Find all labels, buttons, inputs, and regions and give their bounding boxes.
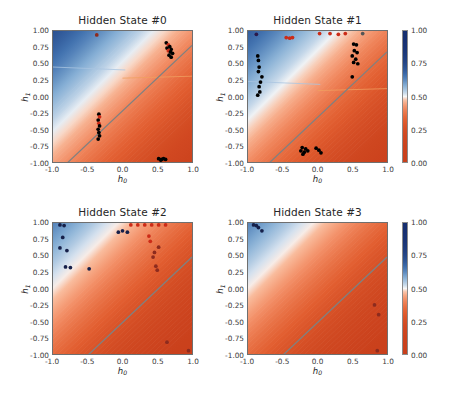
- scatter-point: [318, 32, 322, 36]
- panel-title: Hidden State #1: [247, 14, 388, 26]
- scatter-point: [58, 223, 62, 227]
- scatter-point: [256, 54, 260, 58]
- x-axis-label: h0: [52, 366, 193, 376]
- colorbar-tick-label: 0.50: [411, 92, 427, 101]
- x-axis-label: h0: [247, 366, 388, 376]
- scatter-point: [147, 234, 151, 238]
- scatter-point: [284, 36, 288, 40]
- scatter-point: [61, 236, 65, 240]
- y-tick-label: -0.75: [225, 334, 244, 343]
- scatter-point: [375, 349, 379, 353]
- panel-title: Hidden State #2: [52, 206, 193, 218]
- y-tick-label: 0.50: [228, 251, 244, 260]
- y-tick-label: 1.00: [33, 218, 49, 227]
- scatter-point: [69, 266, 73, 270]
- x-tick-label: 0.5: [152, 357, 164, 366]
- scatter-point: [257, 59, 261, 63]
- scatter-point: [257, 226, 261, 230]
- scatter-point: [260, 229, 264, 233]
- scatter-point: [65, 249, 69, 253]
- colorbar-tick-label: 1.00: [411, 218, 427, 227]
- x-tick-label: 0.0: [312, 165, 324, 174]
- y-tick-label: 0.25: [228, 75, 244, 84]
- scatter-point: [164, 223, 168, 227]
- y-tick-label: -0.75: [30, 142, 49, 151]
- y-tick-label: -0.50: [225, 317, 244, 326]
- y-tick-label: -0.25: [225, 301, 244, 310]
- scatter-point: [159, 158, 163, 162]
- y-tick-label: 1.00: [228, 26, 244, 35]
- scatter-point: [350, 75, 354, 79]
- panel-hidden-state-3: Hidden State #3 h1 h0 -1.00-0.75-0.50-0.…: [247, 222, 388, 355]
- scatter-point: [143, 223, 147, 227]
- scatter-point: [361, 32, 365, 36]
- x-tick-label: 0.0: [117, 165, 129, 174]
- scatter-point: [151, 255, 155, 259]
- scatter-point: [96, 137, 100, 141]
- plot-area: [247, 30, 388, 163]
- scatter-point: [125, 230, 129, 234]
- colorbar-gradient: [402, 30, 408, 163]
- scatter-point: [187, 349, 191, 353]
- y-tick-label: 0.50: [33, 251, 49, 260]
- x-tick-label: -1.0: [45, 357, 59, 366]
- y-tick-label: 0.75: [33, 234, 49, 243]
- y-tick-label: 1.00: [228, 218, 244, 227]
- plot-area: [247, 222, 388, 355]
- y-axis-label: h1: [215, 284, 225, 293]
- y-axis-label: h1: [20, 92, 30, 101]
- scatter-point: [256, 93, 260, 97]
- scatter-point: [354, 57, 358, 61]
- x-tick-label: 1.0: [187, 165, 199, 174]
- y-tick-label: -0.50: [30, 125, 49, 134]
- scatter-point: [257, 70, 261, 74]
- scatter-point: [336, 32, 340, 36]
- scatter-point: [169, 55, 173, 59]
- colorbar-tick-label: 0.75: [411, 251, 427, 260]
- x-tick-label: 0.0: [117, 357, 129, 366]
- scatter-point: [164, 158, 168, 162]
- scatter-point: [301, 152, 305, 156]
- colorbar-gradient: [402, 222, 408, 355]
- panel-title: Hidden State #0: [52, 14, 193, 26]
- x-tick-label: -1.0: [240, 165, 254, 174]
- colorbar-tick-label: 0.50: [411, 284, 427, 293]
- y-axis-label: h1: [215, 92, 225, 101]
- x-axis-label: h0: [52, 174, 193, 184]
- scatter-point: [64, 265, 68, 269]
- scatter-point: [148, 239, 152, 243]
- x-tick-label: 1.0: [187, 357, 199, 366]
- y-axis-label: h1: [20, 284, 30, 293]
- scatter-point: [254, 32, 258, 36]
- y-tick-label: -0.25: [30, 301, 49, 310]
- scatter-point: [259, 80, 263, 84]
- colorbar-tick-label: 0.75: [411, 59, 427, 68]
- y-tick-label: 0.00: [228, 284, 244, 293]
- y-tick-label: 0.75: [228, 42, 244, 51]
- colorbar-tick-label: 0.00: [411, 159, 427, 168]
- scatter-point: [165, 340, 169, 344]
- scatter-point: [260, 75, 264, 79]
- y-tick-label: 1.00: [33, 26, 49, 35]
- scatter-point: [153, 251, 157, 255]
- scatter-point: [62, 224, 66, 228]
- scatter-point: [355, 51, 359, 55]
- y-tick-label: 0.00: [33, 284, 49, 293]
- scatter-point: [352, 61, 356, 65]
- colorbar-tick-label: 1.00: [411, 26, 427, 35]
- scatter-point: [97, 131, 101, 135]
- x-tick-label: 1.0: [382, 357, 394, 366]
- scatter-point: [95, 33, 99, 37]
- y-tick-label: -0.50: [30, 317, 49, 326]
- scatter-point: [150, 223, 154, 227]
- x-tick-label: -0.5: [80, 357, 94, 366]
- plot-area: [52, 222, 193, 355]
- scatter-point: [306, 149, 310, 153]
- scatter-point: [350, 54, 354, 58]
- scatter-point: [343, 32, 347, 36]
- scatter-point: [355, 43, 359, 47]
- scatter-point: [98, 115, 102, 119]
- scatter-point: [257, 85, 261, 89]
- x-tick-label: 0.5: [347, 165, 359, 174]
- scatter-point: [299, 149, 303, 153]
